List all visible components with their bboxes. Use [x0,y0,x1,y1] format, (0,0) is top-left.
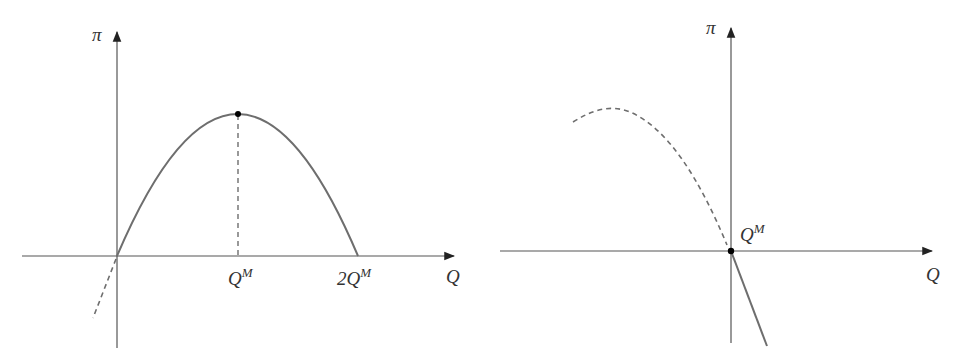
left-peak-point [235,111,241,117]
right-q-label: Q [926,264,940,285]
right-qm-label: QM [740,221,766,245]
left-2qm-tick-label: 2QM [337,265,372,289]
right-qm-point [728,248,734,254]
right-panel: π Q QM [500,17,940,346]
right-profit-line-solid [731,251,767,346]
left-profit-extension-dashed [93,259,116,318]
left-pi-label: π [92,24,102,45]
two-qm-sup: M [359,265,372,280]
left-q-label: Q [446,266,460,287]
left-panel: π Q QM 2QM [22,24,460,348]
diagram-canvas: π Q QM 2QM π Q QM [0,0,961,361]
right-profit-curve-dashed [573,108,727,245]
right-qm-sup: M [753,221,766,236]
qm-base: Q [228,268,242,289]
qm-sup: M [241,265,254,280]
two-qm-base: 2Q [337,268,361,289]
right-pi-label: π [706,17,716,38]
left-qm-tick-label: QM [228,265,254,289]
right-qm-base: Q [740,224,754,245]
